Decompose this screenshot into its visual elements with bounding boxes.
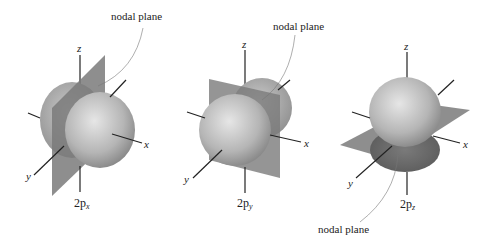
y-label: y bbox=[183, 173, 189, 185]
orbital-label: 2px bbox=[74, 196, 90, 211]
y-axis-front bbox=[193, 150, 222, 178]
upper-lobe bbox=[369, 77, 441, 147]
front-lobe bbox=[199, 94, 271, 166]
front-lobe bbox=[65, 92, 135, 168]
nodal-plane-label: nodal plane bbox=[318, 223, 369, 235]
panel-2pz: z x y nodal plane 2pz bbox=[318, 40, 470, 235]
panel-2px: z x y nodal plane 2px bbox=[25, 10, 162, 211]
y-label: y bbox=[347, 177, 353, 189]
x-label: x bbox=[303, 137, 309, 149]
orbital-label: 2py bbox=[237, 196, 253, 211]
z-label: z bbox=[403, 40, 409, 52]
y-label: y bbox=[25, 170, 31, 182]
x-label: x bbox=[462, 138, 468, 150]
x-axis-back bbox=[352, 112, 370, 118]
orbital-figure: z x y nodal plane 2px z x y nodal plane … bbox=[0, 0, 491, 245]
z-label: z bbox=[241, 38, 247, 50]
nodal-plane-label: nodal plane bbox=[273, 20, 324, 32]
nodal-plane-label: nodal plane bbox=[111, 10, 162, 22]
x-label: x bbox=[143, 138, 149, 150]
x-axis-back bbox=[28, 113, 40, 118]
y-axis-back bbox=[110, 80, 126, 97]
panel-2py: z x y nodal plane 2py bbox=[183, 20, 324, 211]
z-label: z bbox=[76, 42, 82, 54]
y-axis-back bbox=[438, 80, 454, 95]
orbital-label: 2pz bbox=[400, 197, 416, 212]
